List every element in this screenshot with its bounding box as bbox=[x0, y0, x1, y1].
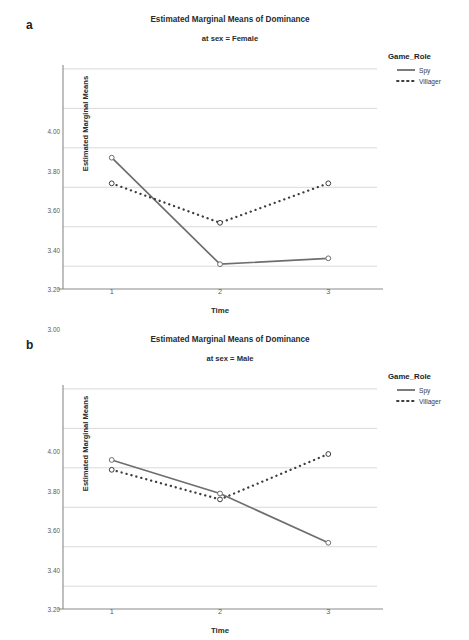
y-axis-tick-label: 3.80 bbox=[20, 168, 60, 175]
legend-item-spy[interactable]: Spy bbox=[396, 386, 469, 394]
y-axis-label: Estimated Marginal Means bbox=[81, 64, 90, 184]
y-axis-tick-label: 3.20 bbox=[20, 606, 60, 613]
legend: Game_Role Spy Villager bbox=[386, 372, 469, 408]
legend-title: Game_Role bbox=[388, 372, 469, 381]
chart-panel-female: a Estimated Marginal Means of Dominance … bbox=[0, 0, 469, 320]
chart-title: Estimated Marginal Means of Dominance bbox=[60, 13, 400, 27]
legend-label-villager: Villager bbox=[419, 78, 441, 85]
y-axis-tick-label: 3.40 bbox=[20, 567, 60, 574]
plot-area: Estimated Marginal Means Time 3.003.203.… bbox=[63, 383, 377, 600]
data-point-marker bbox=[218, 497, 223, 502]
panel-letter-a: a bbox=[26, 18, 33, 32]
legend-title: Game_Role bbox=[388, 52, 469, 61]
plot-svg bbox=[63, 63, 377, 280]
x-axis-tick-label: 3 bbox=[308, 287, 348, 296]
data-point-marker bbox=[218, 220, 223, 225]
legend-label-spy: Spy bbox=[419, 387, 430, 394]
legend-item-spy[interactable]: Spy bbox=[396, 66, 469, 74]
data-point-marker bbox=[109, 458, 114, 463]
panel-letter-b: b bbox=[26, 338, 33, 352]
legend-key-solid-icon bbox=[396, 386, 416, 394]
legend-key-dotted-icon bbox=[396, 397, 416, 405]
legend-key-dotted-icon bbox=[396, 77, 416, 85]
y-axis-label: Estimated Marginal Means bbox=[81, 384, 90, 504]
x-axis-label: Time bbox=[63, 626, 377, 635]
data-point-marker bbox=[218, 262, 223, 267]
legend: Game_Role Spy Villager bbox=[386, 52, 469, 88]
data-point-marker bbox=[326, 181, 331, 186]
plot-svg bbox=[63, 383, 377, 600]
legend-item-villager[interactable]: Villager bbox=[396, 77, 469, 85]
legend-label-spy: Spy bbox=[419, 67, 430, 74]
legend-item-villager[interactable]: Villager bbox=[396, 397, 469, 405]
data-point-marker bbox=[109, 155, 114, 160]
data-point-marker bbox=[109, 467, 114, 472]
y-axis-tick-label: 3.60 bbox=[20, 527, 60, 534]
x-axis-tick-label: 3 bbox=[308, 607, 348, 616]
series-line-spy bbox=[112, 158, 329, 265]
data-point-marker bbox=[218, 491, 223, 496]
y-axis-tick-label: 4.00 bbox=[20, 448, 60, 455]
y-axis-tick-label: 3.80 bbox=[20, 488, 60, 495]
data-point-marker bbox=[326, 540, 331, 545]
title-block: Estimated Marginal Means of Dominance at… bbox=[60, 13, 400, 46]
data-point-marker bbox=[109, 181, 114, 186]
plot-area: Estimated Marginal Means Time 3.003.203.… bbox=[63, 63, 377, 280]
x-axis-tick-label: 2 bbox=[200, 287, 240, 296]
title-block: Estimated Marginal Means of Dominance at… bbox=[60, 333, 400, 366]
y-axis-tick-label: 3.20 bbox=[20, 286, 60, 293]
x-axis-tick-label: 1 bbox=[92, 607, 132, 616]
legend-label-villager: Villager bbox=[419, 398, 441, 405]
y-axis-tick-label: 3.40 bbox=[20, 247, 60, 254]
x-axis-tick-label: 2 bbox=[200, 607, 240, 616]
data-point-marker bbox=[326, 452, 331, 457]
y-axis-tick-label: 3.60 bbox=[20, 207, 60, 214]
chart-subtitle: at sex = Male bbox=[60, 351, 400, 366]
x-axis-label: Time bbox=[63, 306, 377, 315]
chart-panel-male: b Estimated Marginal Means of Dominance … bbox=[0, 320, 469, 640]
legend-key-solid-icon bbox=[396, 66, 416, 74]
y-axis-tick-label: 4.00 bbox=[20, 128, 60, 135]
chart-subtitle: at sex = Female bbox=[60, 31, 400, 46]
x-axis-tick-label: 1 bbox=[92, 287, 132, 296]
data-point-marker bbox=[326, 256, 331, 261]
chart-title: Estimated Marginal Means of Dominance bbox=[60, 333, 400, 347]
